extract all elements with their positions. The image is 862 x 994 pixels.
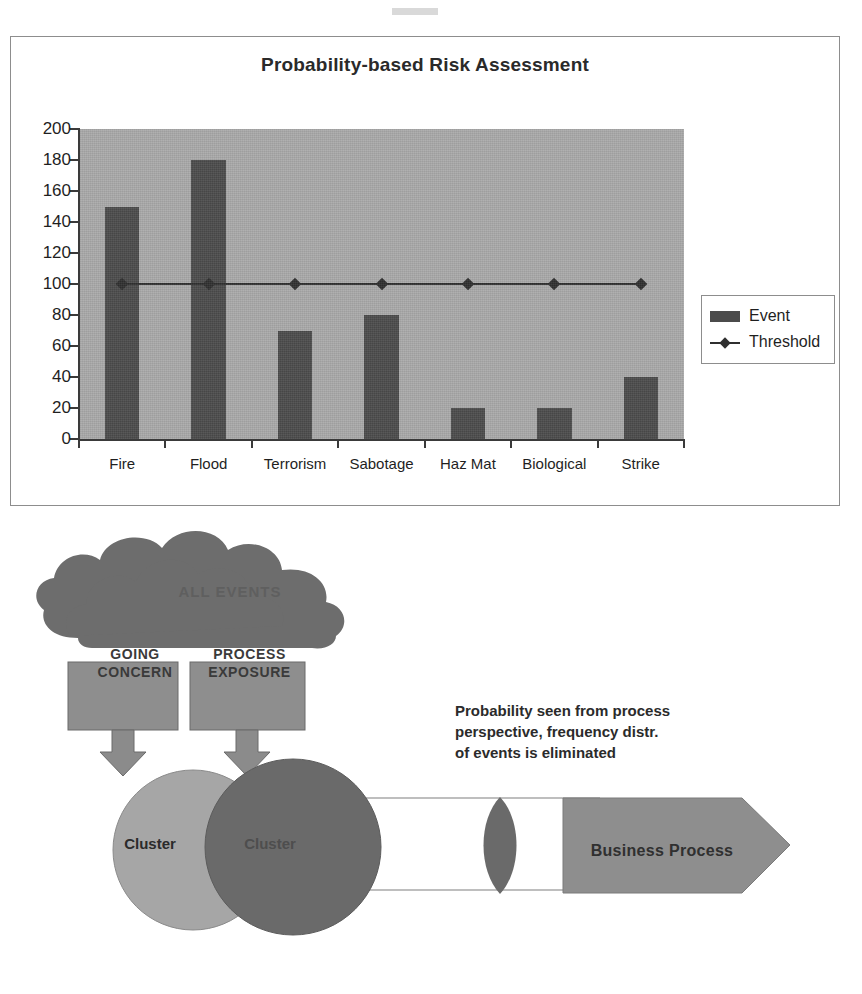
threshold-marker-strike xyxy=(634,278,647,291)
legend-label-threshold: Threshold xyxy=(749,333,820,351)
process-exposure-diagram: ALL EVENTS GOING CONCERN PROCESS EXPOSUR… xyxy=(0,520,862,940)
bar-biological xyxy=(537,408,572,439)
down-arrow-going-concern xyxy=(100,730,146,776)
y-tick-label-200: 200 xyxy=(25,119,71,139)
x-tick-label-biological: Biological xyxy=(522,455,586,472)
y-tick-60 xyxy=(70,345,79,347)
x-tick-3 xyxy=(337,439,339,448)
annotation-line-3: of events is eliminated xyxy=(455,742,785,763)
x-tick-0 xyxy=(78,439,80,448)
x-tick-2 xyxy=(251,439,253,448)
x-tick-label-terrorism: Terrorism xyxy=(264,455,327,472)
legend-label-event: Event xyxy=(749,307,790,325)
scan-artifact xyxy=(392,8,438,15)
business-process-arrow xyxy=(563,798,790,893)
threshold-marker-haz-mat xyxy=(462,278,475,291)
x-tick-7 xyxy=(683,439,685,448)
y-tick-label-0: 0 xyxy=(25,429,71,449)
y-tick-40 xyxy=(70,376,79,378)
y-tick-label-40: 40 xyxy=(25,367,71,387)
y-tick-120 xyxy=(70,252,79,254)
y-tick-label-160: 160 xyxy=(25,181,71,201)
y-tick-label-80: 80 xyxy=(25,305,71,325)
box-going-concern xyxy=(68,662,178,730)
x-tick-4 xyxy=(424,439,426,448)
threshold-marker-terrorism xyxy=(289,278,302,291)
legend-line-swatch-icon xyxy=(710,337,740,348)
x-tick-label-haz-mat: Haz Mat xyxy=(440,455,496,472)
cloud-shape xyxy=(36,531,344,648)
y-tick-label-100: 100 xyxy=(25,274,71,294)
chart-title: Probability-based Risk Assessment xyxy=(11,54,839,76)
annotation-line-1: Probability seen from process xyxy=(455,700,785,721)
threshold-marker-sabotage xyxy=(375,278,388,291)
lens-filter-shape xyxy=(484,797,517,894)
x-tick-label-strike: Strike xyxy=(622,455,660,472)
cluster-circle-right xyxy=(205,759,381,935)
y-tick-20 xyxy=(70,407,79,409)
bar-flood xyxy=(191,160,226,439)
y-tick-100 xyxy=(70,283,79,285)
risk-assessment-chart: Probability-based Risk Assessment 200180… xyxy=(10,36,840,506)
y-tick-200 xyxy=(70,128,79,130)
x-tick-6 xyxy=(597,439,599,448)
y-tick-140 xyxy=(70,221,79,223)
y-tick-label-180: 180 xyxy=(25,150,71,170)
legend-bar-swatch-icon xyxy=(710,311,740,322)
x-tick-5 xyxy=(510,439,512,448)
legend-item-threshold: Threshold xyxy=(710,329,826,355)
x-axis xyxy=(78,439,685,441)
y-tick-label-140: 140 xyxy=(25,212,71,232)
x-tick-label-sabotage: Sabotage xyxy=(349,455,413,472)
y-tick-label-20: 20 xyxy=(25,398,71,418)
x-tick-label-flood: Flood xyxy=(190,455,228,472)
threshold-marker-biological xyxy=(548,278,561,291)
y-tick-label-120: 120 xyxy=(25,243,71,263)
x-tick-1 xyxy=(164,439,166,448)
bar-sabotage xyxy=(364,315,399,439)
annotation-line-2: perspective, frequency distr. xyxy=(455,721,785,742)
y-tick-180 xyxy=(70,159,79,161)
bar-strike xyxy=(624,377,659,439)
chart-plot-area xyxy=(79,129,684,439)
legend-item-event: Event xyxy=(710,303,826,329)
bar-fire xyxy=(105,207,140,440)
x-tick-label-fire: Fire xyxy=(109,455,135,472)
bar-haz-mat xyxy=(451,408,486,439)
y-tick-label-60: 60 xyxy=(25,336,71,356)
chart-legend: Event Threshold xyxy=(701,295,835,364)
y-tick-160 xyxy=(70,190,79,192)
y-tick-80 xyxy=(70,314,79,316)
annotation-text: Probability seen from process perspectiv… xyxy=(455,700,785,763)
box-process-exposure xyxy=(190,662,305,730)
bar-terrorism xyxy=(278,331,313,440)
